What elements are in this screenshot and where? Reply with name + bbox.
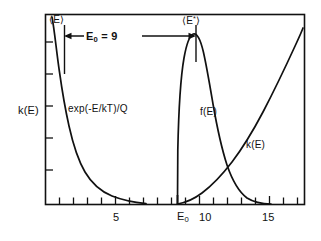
energy-distribution-label: f(E) [200,107,217,117]
reaction-rate-figure [0,0,321,241]
mean-energy-star-base: ⟨E [182,15,193,26]
boltzmann-factor-label: exp(-E/kT)/Q [68,104,128,114]
barrier-value: = 9 [98,30,117,42]
mean-energy-label: ⟨E⟩ [49,15,64,25]
threshold-base: E [177,210,185,222]
mean-energy-star-label: ⟨E*⟩ [182,15,200,26]
x-tick-label-15: 15 [262,212,275,223]
threshold-subscript: 0 [185,215,189,224]
rate-constant-label: k(E) [246,140,265,150]
barrier-base: E [86,30,94,42]
x-tick-label-5: 5 [113,212,119,223]
barrier-label: E0 = 9 [86,31,118,43]
x-tick-label-10: 10 [199,212,212,223]
y-axis-label: k(E) [18,105,39,116]
x-tick-label-threshold: E0 [177,211,189,223]
mean-energy-star-close: ⟩ [196,15,200,26]
